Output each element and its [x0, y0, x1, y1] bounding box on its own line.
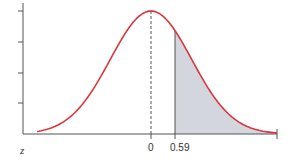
normal-curve: [37, 11, 277, 133]
y-axis-ticks: [18, 11, 23, 103]
shaded-tail-area: [175, 31, 277, 134]
tick-label-value: 0.59: [170, 143, 189, 153]
normal-distribution-chart: [0, 0, 294, 167]
axis-variable-label: z: [20, 145, 24, 155]
tick-label-zero: 0: [148, 143, 154, 153]
